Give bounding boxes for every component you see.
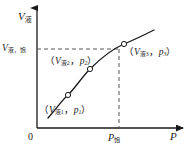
- pt3-open-paren: （: [124, 47, 134, 57]
- y-axis-label-symbol: V: [18, 10, 25, 22]
- x-axis-label-symbol: P: [170, 130, 177, 142]
- pt3-close-paren: ）: [166, 47, 176, 57]
- origin-label: 0: [28, 132, 33, 142]
- data-point-marker-2: [87, 66, 92, 71]
- data-point-marker-3: [121, 41, 126, 46]
- pt1-comma: ，: [64, 105, 74, 115]
- pt1-close-paren: ）: [81, 105, 91, 115]
- y-axis-label-subscript: 液: [25, 16, 32, 23]
- data-point-marker-1: [65, 92, 70, 97]
- pt3-v-subscript: 液3: [140, 51, 149, 57]
- annotation-point-3: （V液3，p3）: [124, 48, 176, 58]
- pt1-v-subscript: 液1: [55, 109, 64, 115]
- x-axis-label: P: [170, 131, 177, 142]
- pt2-open-paren: （: [45, 56, 55, 66]
- pt3-comma: ，: [149, 47, 159, 57]
- x-axis-tick-subscript: 饱: [114, 136, 120, 143]
- y-axis-label: V液: [18, 11, 32, 23]
- annotation-point-2: （V液2，p2）: [45, 57, 97, 67]
- figure-container: V液 V液，饱 0 P饱 P （V液1，p1） （V液2，p2） （V液3，p3…: [0, 0, 195, 158]
- pt2-comma: ，: [70, 56, 80, 66]
- pt1-open-paren: （: [39, 105, 49, 115]
- y-axis-tick-subscript: 液，饱: [8, 47, 26, 53]
- y-axis-tick-label: V液，饱: [2, 44, 26, 54]
- pt2-v-subscript: 液2: [61, 60, 70, 66]
- x-axis-tick-label: P饱: [108, 133, 120, 144]
- pt2-close-paren: ）: [87, 56, 97, 66]
- annotation-point-1: （V液1，p1）: [39, 106, 91, 116]
